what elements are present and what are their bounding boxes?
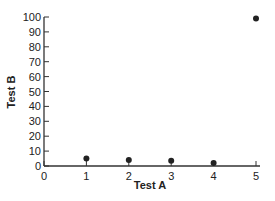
data-point [253,15,259,21]
data-points [83,15,259,166]
y-tick-label: 50 [29,86,41,98]
y-tick-label: 30 [29,115,41,127]
x-tick-label: 5 [253,170,259,182]
y-axis-label: Test B [5,76,17,109]
y-tick-label: 60 [29,71,41,83]
data-point [126,157,132,163]
x-tick-label: 1 [83,170,89,182]
y-tick-label: 100 [23,11,41,23]
y-tick-label: 40 [29,100,41,112]
x-tick-label: 0 [41,170,47,182]
data-point [211,160,217,166]
y-tick-label: 0 [35,160,41,172]
data-point [83,156,89,162]
y-tick-label: 80 [29,41,41,53]
axes: 0123450102030405060708090100 [23,11,260,182]
x-axis-label: Test A [134,179,166,191]
data-point [168,158,174,164]
y-tick-label: 90 [29,26,41,38]
x-tick-label: 2 [126,170,132,182]
x-tick-label: 4 [211,170,217,182]
y-tick-label: 10 [29,145,41,157]
scatter-chart: 0123450102030405060708090100 Test A Test… [0,0,275,201]
y-tick-label: 70 [29,56,41,68]
x-tick-label: 3 [168,170,174,182]
y-tick-label: 20 [29,130,41,142]
